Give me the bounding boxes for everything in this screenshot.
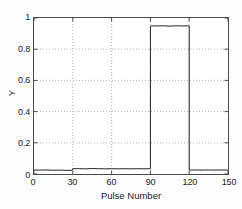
y-tick-label: 0.8 [18, 44, 30, 53]
x-tick-label: 90 [146, 178, 156, 187]
y-tick-label: 0.4 [18, 107, 30, 116]
y-tick-label: 1 [25, 13, 30, 22]
y-tick-label: 0.2 [18, 139, 30, 148]
axis-tick-marks [34, 18, 228, 174]
y-axis-title: Y [7, 73, 17, 113]
x-axis-title: Pulse Number [33, 190, 229, 201]
x-tick-label: 0 [31, 178, 36, 187]
x-axis-tick-labels: 0306090120150 [33, 178, 229, 190]
y-tick-label: 0 [25, 171, 30, 180]
y-tick-label: 0.6 [18, 76, 30, 85]
x-tick-label: 150 [222, 178, 236, 187]
x-tick-label: 60 [107, 178, 117, 187]
x-tick-label: 120 [183, 178, 197, 187]
plot-area [33, 17, 229, 175]
x-tick-label: 30 [67, 178, 77, 187]
figure-container: 00.20.40.60.81 0306090120150 Pulse Numbe… [0, 0, 242, 209]
